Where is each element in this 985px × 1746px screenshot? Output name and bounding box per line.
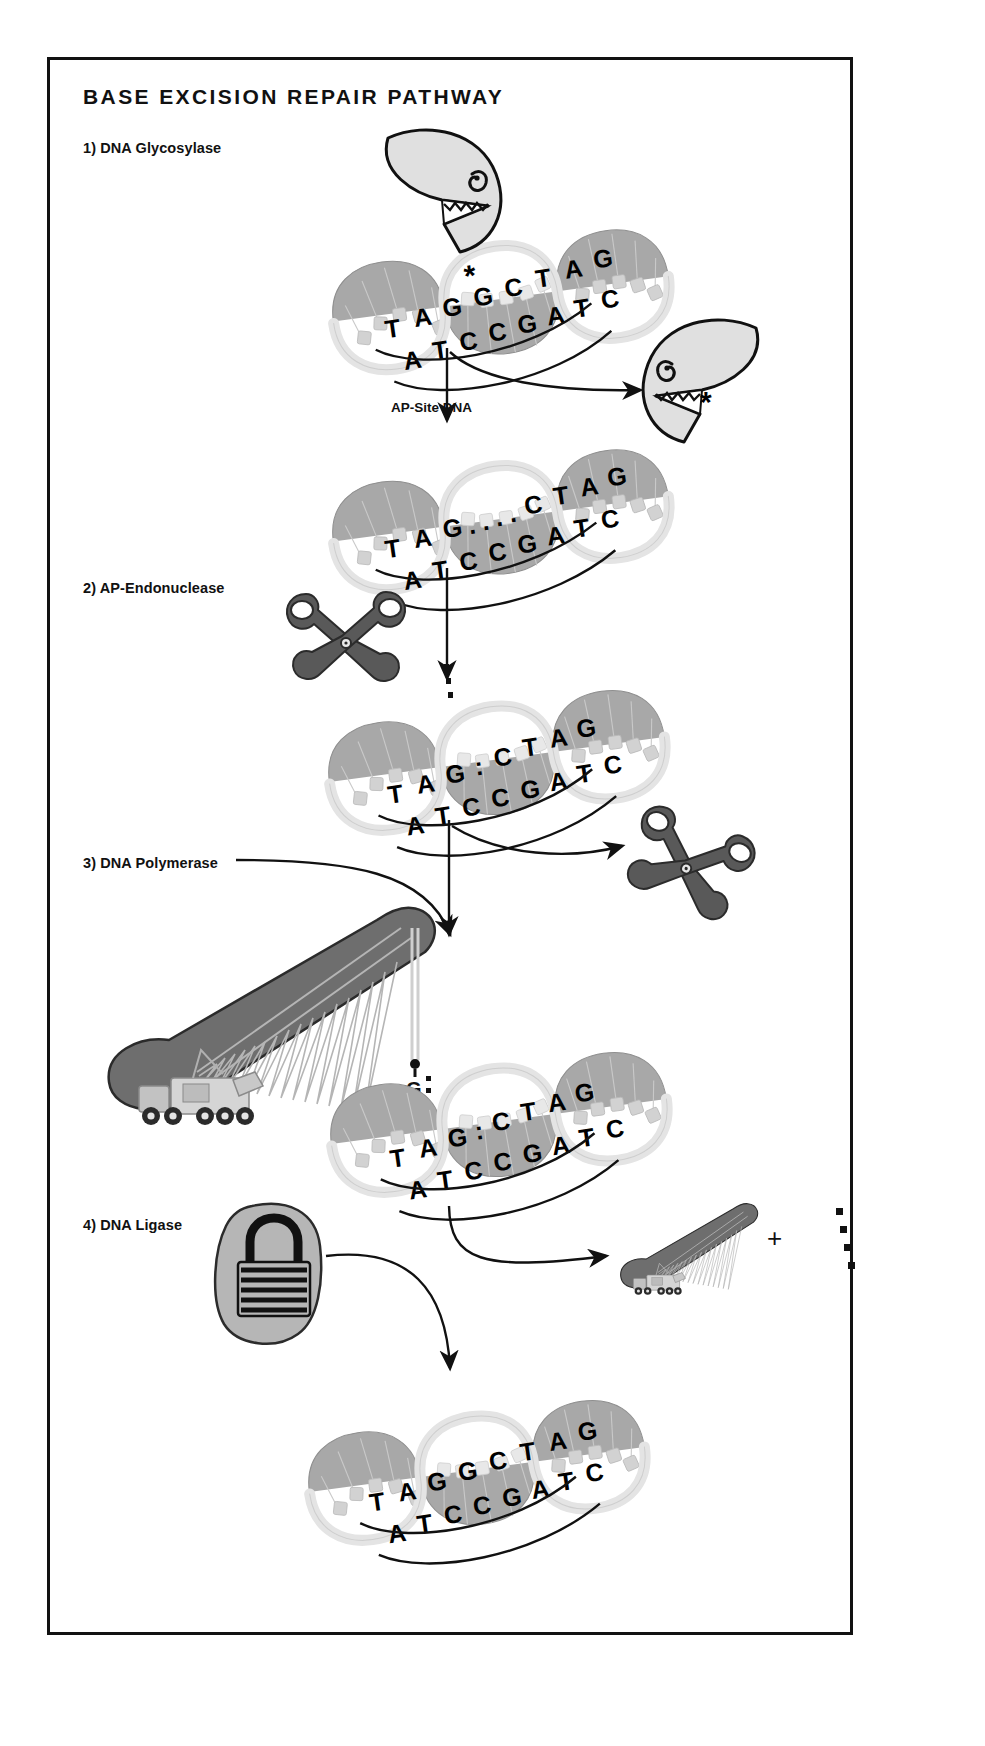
dna-repaired-group: TA GG CT AG AT CC GA TC [302,1393,652,1574]
glycosylase-enzyme-icon [386,130,501,252]
scissors-icon [287,592,405,681]
figure-page: BASE EXCISION REPAIR PATHWAY 1) DNA Glyc… [0,0,985,1746]
crane-released-icon [621,1204,758,1295]
released-base-dots [836,1208,855,1269]
arrow-polymerase-release [449,1206,606,1263]
diagram-artwork: TA GG CT AG AT CC GA TC * [50,60,856,1638]
insert-dots [426,1076,431,1093]
scissors-released-icon [617,799,760,926]
damaged-base-marker: * [462,258,478,292]
figure-frame: BASE EXCISION REPAIR PATHWAY 1) DNA Glyc… [47,57,853,1635]
glycosylase-released-icon: * [643,320,758,442]
excised-base-marker: * [700,385,712,418]
dna-nicked-group: TA G : CT AG AT CC GA TC [322,683,672,866]
dna-damaged-group: TA GG CT AG AT CC GA TC * [326,223,676,401]
padlock-ligase-icon [215,1204,321,1344]
nick-dots [444,664,453,698]
arrow-ligase-in [326,1255,450,1368]
dna-filling-group: TA G : CT AG AT CC GA TC [324,1045,674,1230]
